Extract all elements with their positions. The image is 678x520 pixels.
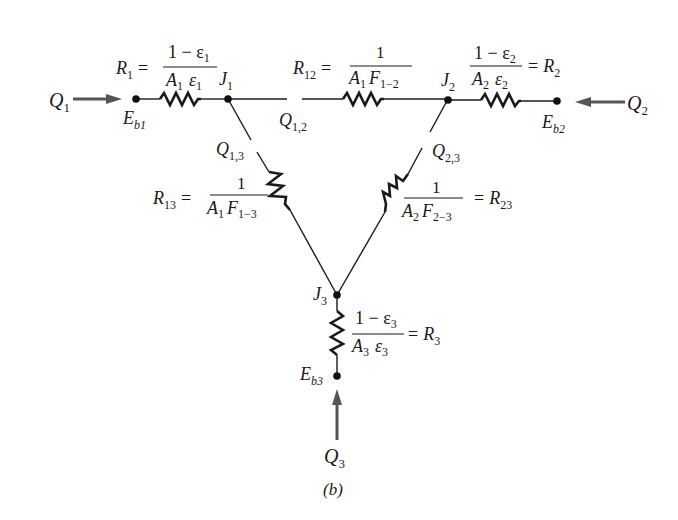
wire-j1-q13 <box>228 99 251 140</box>
resistor-r1-symbol <box>160 93 201 105</box>
arrowhead-q2-icon <box>575 97 591 107</box>
svg-text:A3ε3: A3ε3 <box>351 336 388 359</box>
svg-text:1 − ε2: 1 − ε2 <box>474 43 516 66</box>
label-q2: Q2 <box>627 92 648 118</box>
svg-text:R12=: R12= <box>292 58 331 82</box>
node-j3 <box>333 291 341 299</box>
label-q1: Q1 <box>49 89 70 115</box>
wires <box>136 99 557 376</box>
wire-q13-r13 <box>257 152 269 172</box>
svg-text:=R3: =R3 <box>408 324 440 348</box>
formula-r3: 1 − ε3 A3ε3 =R3 <box>351 308 440 359</box>
label-j2: J2 <box>441 70 455 94</box>
nodes <box>132 95 561 380</box>
resistor-r12-symbol <box>343 93 384 105</box>
resistor-r13-symbol <box>268 172 290 210</box>
formula-r2: 1 − ε2 A2ε2 =R2 <box>470 43 560 92</box>
label-q13: Q1,3 <box>216 139 244 163</box>
svg-text:R13=: R13= <box>152 188 191 212</box>
node-eb1 <box>132 95 140 103</box>
svg-text:1: 1 <box>432 178 441 197</box>
formula-r13: R13= 1 A1F1−3 <box>152 174 268 221</box>
svg-text:1 − ε1: 1 − ε1 <box>168 42 210 65</box>
node-j2 <box>444 96 452 104</box>
svg-text:A1ε1: A1ε1 <box>165 70 202 93</box>
node-eb3 <box>333 372 341 380</box>
formula-r1: R1= 1 − ε1 A1ε1 <box>115 42 217 93</box>
wire-q23-r23 <box>408 148 422 174</box>
resistors <box>160 93 521 355</box>
svg-text:A1F1−3: A1F1−3 <box>206 198 257 221</box>
svg-text:1: 1 <box>237 174 246 193</box>
wire-r23-j3 <box>337 212 385 295</box>
label-j1: J1 <box>219 69 233 93</box>
svg-text:=R23: =R23 <box>474 188 512 212</box>
resistor-r2-symbol <box>481 94 521 106</box>
svg-text:A2ε2: A2ε2 <box>471 69 508 92</box>
label-eb1: Eb1 <box>122 108 146 132</box>
svg-text:1: 1 <box>376 43 385 62</box>
label-eb2: Eb2 <box>541 112 565 136</box>
label-q23: Q2,3 <box>432 141 460 165</box>
arrowhead-q3-icon <box>332 389 342 405</box>
label-eb3: Eb3 <box>299 364 323 388</box>
svg-text:1 − ε3: 1 − ε3 <box>355 308 397 331</box>
wire-r13-j3 <box>290 210 337 295</box>
svg-text:A2F2−3: A2F2−3 <box>401 201 452 224</box>
label-q12: Q1,2 <box>279 110 307 134</box>
svg-text:A1F1−2: A1F1−2 <box>348 68 399 91</box>
figure-caption: (b) <box>323 480 343 499</box>
resistor-r3-symbol <box>331 311 343 355</box>
wire-j2-q23 <box>430 99 448 132</box>
label-q3: Q3 <box>324 445 345 471</box>
formula-r12: R12= 1 A1F1−2 <box>292 43 412 91</box>
radiation-network-diagram: Q1 Q2 Q3 Q1,2 Q1,3 Q2,3 Eb1 Eb2 Eb3 J1 J… <box>0 0 678 520</box>
node-eb2 <box>553 97 561 105</box>
node-j1 <box>224 95 232 103</box>
formula-r23: 1 A2F2−3 =R23 <box>401 178 512 224</box>
heat-flow-arrows <box>73 94 625 440</box>
svg-text:R1=: R1= <box>115 58 148 82</box>
label-j3: J3 <box>313 284 327 308</box>
svg-text:=R2: =R2 <box>528 56 560 80</box>
arrowhead-q1-icon <box>106 94 122 104</box>
